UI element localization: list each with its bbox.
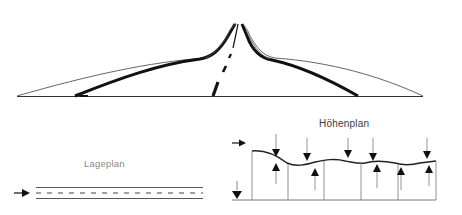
perspective-view [17, 23, 423, 97]
sag-arrows [272, 163, 433, 190]
datum-level-icon [232, 181, 242, 199]
road-diagram [0, 0, 462, 215]
lageplan-panel [14, 188, 203, 199]
right-lane-line [242, 24, 358, 96]
direction-arrow-icon [232, 140, 246, 147]
left-outer-edge [17, 24, 236, 96]
center-dashed-line [213, 82, 218, 96]
lageplan-label: Lageplan [84, 158, 125, 169]
hoehenplan-panel [232, 134, 436, 200]
direction-arrow-icon [14, 189, 30, 197]
crest-arrows [272, 134, 431, 161]
hoehenplan-label: Höhenplan [319, 118, 369, 129]
left-lane-line [75, 24, 235, 96]
grade-line [252, 151, 436, 165]
